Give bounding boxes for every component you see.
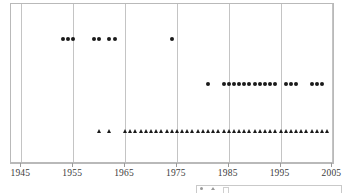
data-point [175,129,179,133]
data-point [165,129,169,133]
x-tick-label: 1975 [166,168,186,178]
x-tick-label: 1955 [62,168,82,178]
data-point [222,129,226,133]
data-point [263,129,267,133]
data-point [273,82,277,86]
data-point [232,82,236,86]
data-point [315,129,319,133]
gridline-1975 [177,4,178,162]
data-point [196,129,200,133]
data-point [325,129,329,133]
data-point [289,82,293,86]
x-axis-line [10,163,334,164]
data-point [190,129,194,133]
data-point [66,37,70,41]
x-tick-1945 [20,163,21,167]
data-point [222,82,226,86]
data-point [294,129,298,133]
data-point [315,82,319,86]
gridline-2005 [332,4,333,162]
data-point [180,129,184,133]
data-point [206,129,210,133]
x-tick-1955 [72,163,73,167]
data-point [201,129,205,133]
data-point [242,82,246,86]
x-tick-label: 1995 [270,168,290,178]
data-point [320,129,324,133]
gridline-1965 [125,4,126,162]
data-point [107,37,111,41]
data-point [159,129,163,133]
chart-root: 1945195519651975198519952005 [0,0,344,193]
data-point [227,82,231,86]
data-point [304,129,308,133]
chart-legend [196,185,342,193]
data-point [253,129,257,133]
data-point [97,129,101,133]
data-point [211,129,215,133]
data-point [268,82,272,86]
data-point [133,129,137,133]
data-point [61,37,65,41]
plot-area [10,3,334,163]
data-point [310,82,314,86]
data-point [247,129,251,133]
legend-circle-marker-icon [200,187,203,190]
data-point [253,82,257,86]
data-point [97,37,101,41]
data-point [273,129,277,133]
data-point [258,82,262,86]
data-point [185,129,189,133]
x-tick-1985 [228,163,229,167]
gridline-1945 [21,4,22,162]
data-point [237,129,241,133]
data-point [139,129,143,133]
data-point [284,82,288,86]
data-point [154,129,158,133]
data-point [128,129,132,133]
data-point [170,129,174,133]
data-point [289,129,293,133]
data-point [123,129,127,133]
data-point [107,129,111,133]
x-tick-1965 [124,163,125,167]
data-point [279,129,283,133]
legend-entry-box [223,187,229,193]
data-point [144,129,148,133]
data-point [263,82,267,86]
data-point [227,129,231,133]
gridline-1955 [73,4,74,162]
data-point [294,82,298,86]
data-point [92,37,96,41]
x-tick-label: 1985 [218,168,238,178]
x-tick-1995 [280,163,281,167]
x-tick-2005 [331,163,332,167]
gridline-1995 [281,4,282,162]
data-point [268,129,272,133]
data-point [170,37,174,41]
data-point [299,129,303,133]
data-point [247,82,251,86]
data-point [216,129,220,133]
legend-entry-triangle [211,187,217,190]
data-point [71,37,75,41]
data-point [206,82,210,86]
data-point [232,129,236,133]
x-tick-label: 2005 [322,168,342,178]
data-point [320,82,324,86]
data-point [284,129,288,133]
x-tick-1975 [176,163,177,167]
legend-triangle-marker-icon [211,187,215,190]
x-tick-label: 1945 [10,168,30,178]
data-point [258,129,262,133]
data-point [242,129,246,133]
data-point [237,82,241,86]
x-tick-label: 1965 [114,168,134,178]
data-point [113,37,117,41]
data-point [149,129,153,133]
data-point [310,129,314,133]
legend-entry-circle [200,187,205,190]
